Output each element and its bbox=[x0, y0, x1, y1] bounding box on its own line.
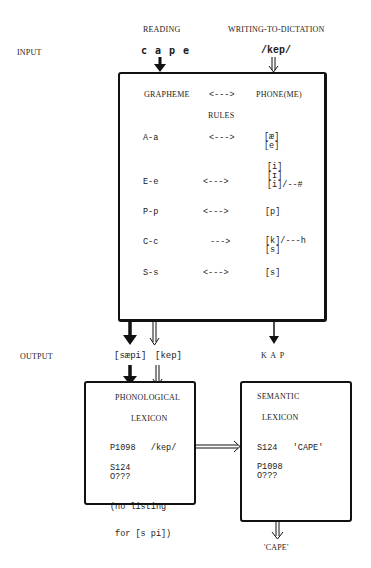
no-listing-note: (no listing for [s pi]) bbox=[110, 485, 171, 548]
input-grapheme: c a p e bbox=[141, 45, 190, 56]
rule-grapheme-a: A-a bbox=[143, 133, 158, 143]
semantic-lexicon-subtitle: LEXICON bbox=[262, 413, 299, 422]
rule-arrow-s: <---> bbox=[203, 268, 229, 278]
note-line-1: (no listing bbox=[110, 503, 171, 512]
semantic-entry-cape: S124 'CAPE' bbox=[257, 443, 323, 453]
reading-output: [sæpi] bbox=[114, 351, 146, 361]
reading-label: READING bbox=[143, 25, 180, 34]
phonological-entry-refs: S124 O??? bbox=[110, 464, 130, 482]
final-output: 'CAPE' bbox=[264, 543, 289, 552]
spelling-output-arrow bbox=[269, 322, 279, 344]
rule-arrow-p: <---> bbox=[203, 207, 229, 217]
phonological-lexicon-subtitle: LEXICON bbox=[131, 414, 168, 423]
dictation-output: [kep] bbox=[155, 351, 182, 361]
phone-s: [s] bbox=[265, 246, 306, 255]
rule-arrow-a: <---> bbox=[209, 133, 235, 143]
correspondence-arrow: <---> bbox=[209, 90, 235, 100]
rule-phones-c: [k]/---h [s] bbox=[265, 237, 306, 255]
input-phonemic: /kep/ bbox=[261, 45, 291, 56]
phonological-lexicon-title: PHONOLOGICAL bbox=[115, 393, 180, 402]
note-line-2: for [s pi]) bbox=[110, 530, 171, 539]
phone-e: [e] bbox=[264, 142, 279, 151]
rule-grapheme-c: C-c bbox=[143, 237, 158, 247]
rule-arrow-c: ---> bbox=[210, 237, 230, 247]
rule-grapheme-p: P-p bbox=[143, 207, 158, 217]
semantic-entry-refs: P1098 O??? bbox=[257, 463, 283, 481]
rule-grapheme-s: S-s bbox=[143, 268, 158, 278]
rule-phones-e: [i] [ɪ] [i]/--# bbox=[267, 163, 303, 190]
rule-grapheme-e: E-e bbox=[143, 177, 158, 187]
dictation-output-arrow bbox=[150, 322, 159, 345]
phoneme-heading: PHONE(ME) bbox=[256, 90, 302, 99]
rule-phones-a: [æ] [e] bbox=[264, 133, 279, 151]
phonological-entry-kep: P1098 /kep/ bbox=[110, 443, 176, 453]
rules-subtitle: RULES bbox=[208, 111, 234, 120]
rule-phones-s: [s] bbox=[265, 268, 280, 278]
phone-i-final: [i]/--# bbox=[267, 181, 303, 190]
rule-arrow-e: <---> bbox=[203, 177, 229, 187]
reading-output-arrow bbox=[123, 322, 137, 345]
dictation-input-arrow bbox=[269, 57, 278, 72]
input-label: INPUT bbox=[17, 48, 42, 57]
semantic-output-arrow bbox=[272, 521, 283, 539]
orthographic-ref: O??? bbox=[110, 473, 130, 482]
reading-input-arrow bbox=[154, 57, 166, 72]
phonological-to-semantic-arrow bbox=[195, 441, 240, 452]
semantic-lexicon-title: SEMANTIC bbox=[257, 392, 300, 401]
dictation-label: WRITING-TO-DICTATION bbox=[228, 25, 325, 34]
grapheme-phoneme-rules-box bbox=[118, 72, 327, 322]
spelling-output: K A P bbox=[261, 351, 285, 360]
rule-phones-p: [p] bbox=[265, 207, 280, 217]
output-label: OUTPUT bbox=[20, 352, 53, 361]
grapheme-heading: GRAPHEME bbox=[144, 90, 190, 99]
orthographic-ref: O??? bbox=[257, 472, 283, 481]
